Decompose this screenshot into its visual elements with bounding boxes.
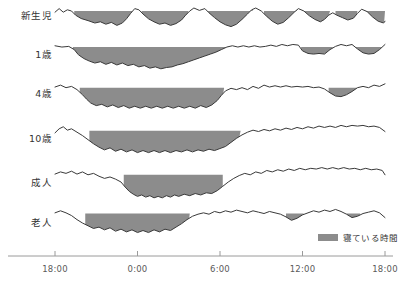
sleep-region: [73, 46, 230, 68]
xtick-label-2: 6:00: [190, 264, 250, 274]
sleep-region: [124, 175, 223, 198]
legend-label-sleep: 寝ている時間: [343, 231, 398, 243]
sleep-region: [85, 214, 190, 233]
legend: 寝ている時間: [318, 231, 398, 243]
sleep-region: [80, 88, 224, 108]
plot-area: [0, 0, 401, 286]
sleep-region: [336, 11, 358, 20]
xtick-label-1: 0:00: [108, 264, 168, 274]
xtick-label-3: 12:00: [273, 264, 333, 274]
series-4: [55, 168, 385, 198]
xtick-label-0: 18:00: [25, 264, 85, 274]
series-1: [55, 44, 385, 68]
series-0: [55, 8, 385, 27]
sleep-pattern-chart: 新生児 1歳 4歳 10歳 成人 老人 18:00 0:00 6:00 12:0…: [0, 0, 401, 286]
series-3: [55, 125, 385, 152]
series-5: [55, 209, 385, 232]
sleep-region: [264, 10, 297, 24]
legend-swatch-sleep: [318, 234, 338, 241]
series-2: [55, 84, 385, 108]
xtick-label-4: 18:00: [355, 264, 401, 274]
